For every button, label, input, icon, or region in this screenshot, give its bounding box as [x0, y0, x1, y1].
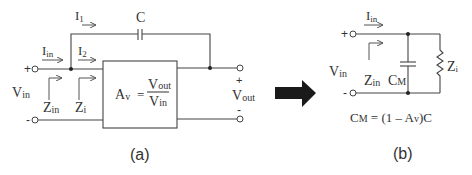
label-zi: Zi: [75, 100, 87, 115]
b-bottom-junction-dot: [406, 91, 410, 95]
input-minus-terminal: [32, 117, 38, 123]
caption-a: (a): [130, 146, 150, 163]
b-zin-arrow-icon: [369, 43, 383, 60]
label-iin: Iin: [42, 43, 54, 59]
feedback-wire-right: [142, 34, 210, 68]
label-capacitor-c: C: [136, 10, 145, 25]
miller-effect-diagram: I1 C Iin I2 + - Vin Zin Zi + - Vout Av =…: [0, 0, 472, 175]
label-i2: I2: [78, 43, 87, 59]
gain-denominator: Vin: [149, 94, 167, 109]
b-input-minus-terminal: [350, 90, 356, 96]
gain-av: Av: [115, 87, 130, 102]
miller-capacitance-formula: CM = (1 – Av)C: [350, 110, 432, 125]
input-plus-terminal: [32, 66, 38, 72]
right-arrow-icon: [275, 80, 316, 107]
caption-b: (b): [393, 145, 413, 162]
output-junction-dot: [208, 66, 212, 70]
b-label-minus-in: -: [343, 86, 347, 100]
output-plus-terminal: [237, 65, 243, 71]
label-vin: Vin: [12, 85, 30, 100]
gain-equals: =: [137, 87, 144, 102]
label-i1: I1: [75, 8, 84, 24]
label-plus-out: +: [236, 74, 242, 86]
b-label-vin: Vin: [329, 64, 347, 79]
label-minus-in: -: [26, 113, 30, 127]
input-junction-dot: [69, 67, 73, 71]
b-label-plus-in: +: [341, 27, 348, 41]
label-plus-in: +: [24, 62, 31, 76]
b-top-junction-dot: [406, 32, 410, 36]
label-minus-out: -: [237, 103, 241, 117]
b-label-iin: Iin: [366, 8, 378, 24]
b-input-plus-terminal: [350, 31, 356, 37]
b-label-cm: CM: [388, 73, 406, 88]
gain-equation: Av = Vout Vin: [115, 77, 171, 109]
zin-arrow-icon: [49, 78, 62, 100]
panel-a-circuit: I1 C Iin I2 + - Vin Zin Zi + - Vout Av =…: [12, 8, 255, 163]
zi-resistor-icon: [437, 34, 443, 93]
gain-numerator: Vout: [148, 77, 171, 92]
zi-arrow-icon: [79, 78, 96, 100]
b-label-zin: Zin: [364, 73, 380, 88]
b-label-zi: Zi: [447, 59, 459, 74]
panel-b-circuit: Iin + - Vin Zin CM Zi CM = (1 – Av)C (b): [329, 8, 459, 162]
label-zin: Zin: [43, 100, 59, 115]
label-vout: Vout: [232, 88, 255, 103]
